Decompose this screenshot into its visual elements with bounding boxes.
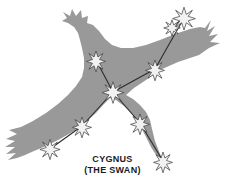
star-sadr bbox=[102, 82, 124, 104]
star-deneb-companion bbox=[164, 20, 181, 36]
cygnus-constellation-diagram bbox=[0, 0, 225, 184]
star-kappa-cygni bbox=[40, 139, 60, 159]
star-albireo bbox=[154, 152, 173, 173]
star-iota-cygni bbox=[73, 117, 92, 138]
star-epsilon-cygni bbox=[146, 60, 165, 81]
star-eta-cygni bbox=[131, 114, 150, 135]
star-delta-cygni bbox=[87, 51, 106, 72]
